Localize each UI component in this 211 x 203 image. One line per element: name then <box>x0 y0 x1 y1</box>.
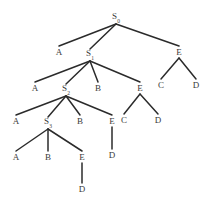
tree-node-subscript: 3 <box>49 124 52 130</box>
tree-edge <box>140 94 158 114</box>
tree-edge <box>35 61 90 82</box>
tree-edge <box>59 24 116 46</box>
tree-node-s1: S1 <box>86 49 94 60</box>
tree-node-subscript: 1 <box>91 56 94 62</box>
tree-node-e4d: D <box>79 185 86 194</box>
tree-node-symbol: D <box>193 80 200 90</box>
tree-node-symbol: E <box>79 152 85 162</box>
tree-node-symbol: D <box>155 115 162 125</box>
tree-node-symbol: E <box>109 116 115 126</box>
tree-edge <box>66 61 90 84</box>
tree-node-symbol: D <box>79 184 86 194</box>
tree-edge <box>48 129 82 151</box>
tree-node-e4: E <box>79 153 85 162</box>
tree-node-s2: S2 <box>62 84 70 95</box>
tree-node-e1c: C <box>158 81 164 90</box>
tree-node-symbol: E <box>137 83 143 93</box>
tree-node-b3: B <box>77 117 83 126</box>
tree-node-symbol: A <box>56 47 63 57</box>
tree-node-e2d: D <box>155 116 162 125</box>
tree-node-symbol: A <box>32 83 39 93</box>
tree-node-e1d: D <box>193 81 200 90</box>
tree-node-symbol: B <box>95 83 101 93</box>
tree-edge <box>116 24 179 46</box>
tree-node-a2: A <box>32 84 39 93</box>
tree-edge <box>124 94 140 114</box>
tree-node-s3: S3 <box>44 117 52 128</box>
tree-node-symbol: B <box>45 152 51 162</box>
tree-node-symbol: B <box>77 116 83 126</box>
tree-node-a3: A <box>13 117 20 126</box>
tree-node-e2: E <box>137 84 143 93</box>
tree-edge <box>16 129 48 151</box>
tree-node-e3: E <box>109 117 115 126</box>
tree-node-e1: E <box>176 48 182 57</box>
tree-edge <box>90 24 116 49</box>
tree-edges-layer <box>0 0 211 203</box>
parse-tree-figure: S0AS1ECDAS2BECDAS3BEDABED <box>0 0 211 203</box>
tree-node-a4: A <box>13 153 20 162</box>
tree-node-symbol: A <box>13 152 20 162</box>
tree-node-symbol: C <box>158 80 164 90</box>
tree-node-subscript: 0 <box>117 19 120 25</box>
tree-node-symbol: D <box>109 150 116 160</box>
tree-node-e2c: C <box>121 116 127 125</box>
tree-edge <box>179 58 196 79</box>
tree-node-symbol: C <box>121 115 127 125</box>
tree-node-e3d: D <box>109 151 116 160</box>
tree-node-symbol: A <box>13 116 20 126</box>
tree-edge <box>161 58 179 79</box>
tree-node-s0: S0 <box>112 12 120 23</box>
tree-node-b2: B <box>95 84 101 93</box>
tree-node-a1: A <box>56 48 63 57</box>
tree-node-b4: B <box>45 153 51 162</box>
tree-node-subscript: 2 <box>67 91 70 97</box>
tree-node-symbol: E <box>176 47 182 57</box>
